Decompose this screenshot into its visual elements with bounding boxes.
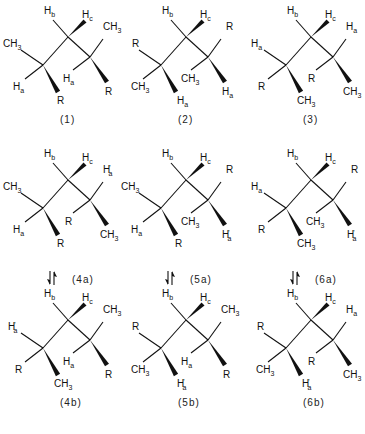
bond-left-lower (143, 348, 161, 362)
wedge-bond (161, 348, 178, 376)
bond-c1-c2 (161, 180, 186, 208)
wedge-bond (43, 348, 60, 376)
conformer-diagram: HbHcCH3HaRCH3HaR(1)HbHcRCH3HaRCH3Ha(2)Hb… (0, 0, 365, 434)
wedge-bond (208, 340, 227, 366)
bond-right-upper (333, 322, 346, 340)
bond-left-lower (25, 65, 43, 79)
bond-right-mid (191, 340, 208, 353)
wedge-bond (161, 208, 178, 236)
molecule-caption: (3) (303, 114, 318, 125)
label-right-wedge: R (223, 369, 230, 380)
label-right-mid: CH3 (306, 216, 324, 229)
label-left-upper: Ha (251, 181, 262, 194)
molecule-caption: (4a) (72, 274, 94, 285)
wedge-bond (68, 19, 87, 37)
bond-right-mid (73, 200, 90, 213)
molecule-caption: (6a) (315, 274, 337, 285)
wedge-bond (90, 340, 109, 366)
bond-hb (171, 20, 186, 37)
label-right-upper: H'a (103, 164, 113, 177)
bond-left-upper (21, 50, 43, 65)
label-left-wedge: H'a (302, 378, 312, 391)
label-right-mid: Ha (63, 356, 74, 369)
label-left-upper: R (132, 321, 139, 332)
bond-hb (171, 163, 186, 180)
bond-hb (296, 303, 311, 320)
label-right-upper: CH3 (103, 304, 121, 317)
bond-right-upper (333, 39, 346, 57)
bond-right-mid (191, 200, 208, 213)
label-right-wedge: R (105, 369, 112, 380)
equilibrium-arrow-icon (47, 271, 57, 285)
label-right-wedge: H'a (347, 229, 357, 242)
wedge-bond (68, 302, 87, 320)
bond-right-upper (208, 182, 221, 200)
bond-left-lower (25, 208, 43, 222)
bond-c1-c2 (161, 37, 186, 65)
bond-c2-c3 (311, 37, 333, 57)
label-right-upper: CH3 (221, 304, 239, 317)
wedge-bond (333, 340, 352, 366)
bond-c2-c3 (68, 180, 90, 200)
label-hb: Hb (44, 288, 55, 301)
molecule-4a: HbHcCH3HaRH'aRCH3(4a) (3, 148, 118, 285)
bond-left-lower (143, 65, 161, 79)
bond-left-upper (21, 193, 43, 208)
wedge-bond (311, 302, 330, 320)
bond-left-upper (139, 333, 161, 348)
label-right-upper: Ha (346, 21, 357, 34)
label-hb: Hb (162, 5, 173, 18)
label-left-upper: CH3 (3, 38, 21, 51)
label-right-mid: Ha (63, 73, 74, 86)
molecule-caption: (5b) (178, 397, 200, 408)
bond-c2-c3 (186, 37, 208, 57)
label-left-lower: CH3 (131, 364, 149, 377)
bond-c1-c2 (43, 320, 68, 348)
bond-left-lower (268, 208, 286, 222)
bond-left-upper (264, 193, 286, 208)
bond-right-mid (73, 57, 90, 70)
label-left-upper: CH3 (3, 181, 21, 194)
bond-c1-c2 (286, 320, 311, 348)
label-right-upper: R (351, 164, 358, 175)
equilibrium-arrow-icon (165, 271, 175, 285)
molecule-6a: HbHcHaRCH3RCH3H'a(6a) (251, 148, 358, 285)
label-left-upper: H'a (8, 321, 18, 334)
bond-hb (296, 163, 311, 180)
bond-hb (171, 303, 186, 320)
bond-right-mid (191, 57, 208, 70)
label-left-wedge: R (175, 238, 182, 249)
bond-left-upper (139, 193, 161, 208)
label-left-upper: CH3 (121, 181, 139, 194)
label-left-wedge: CH3 (297, 238, 315, 251)
bond-right-mid (316, 200, 333, 213)
bond-right-mid (73, 340, 90, 353)
wedge-bond (43, 208, 60, 236)
bond-c2-c3 (186, 180, 208, 200)
bond-right-upper (333, 182, 346, 200)
bond-left-upper (139, 50, 161, 65)
label-right-mid: CH3 (181, 73, 199, 86)
label-left-lower: Ha (13, 224, 24, 237)
label-right-upper: Ha (346, 304, 357, 317)
label-right-wedge: Ha (222, 86, 233, 99)
molecule-5b: HbHcRCH3H'aCH3HaR(5b) (131, 288, 239, 408)
label-left-upper: R (257, 321, 264, 332)
label-left-lower: Ha (13, 81, 24, 94)
wedge-bond (286, 65, 303, 93)
equilibrium-arrow-icon (290, 271, 300, 285)
label-hb: Hb (287, 5, 298, 18)
bond-c1-c2 (43, 180, 68, 208)
molecule-caption: (2) (178, 114, 193, 125)
wedge-bond (161, 65, 178, 93)
bond-left-upper (264, 333, 286, 348)
bond-c2-c3 (186, 320, 208, 340)
molecule-caption: (5a) (190, 274, 212, 285)
bond-right-upper (90, 322, 103, 340)
bond-left-upper (21, 333, 43, 348)
wedge-bond (43, 65, 60, 93)
bond-right-upper (208, 39, 221, 57)
bond-c2-c3 (68, 320, 90, 340)
molecule-caption: (6b) (303, 397, 325, 408)
label-hb: Hb (44, 148, 55, 161)
